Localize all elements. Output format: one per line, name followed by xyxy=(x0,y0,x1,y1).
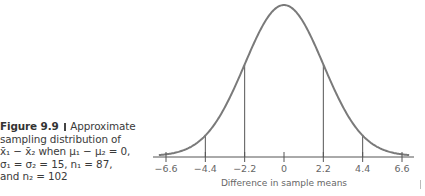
x-tick-label: 6.6 xyxy=(394,163,409,174)
x-tick-label: 0 xyxy=(281,163,287,174)
density-curve xyxy=(159,5,409,155)
scan-mark xyxy=(420,180,421,189)
x-tick-label: 4.4 xyxy=(355,163,370,174)
x-axis-label: Difference in sample means xyxy=(221,178,347,188)
reference-lines xyxy=(205,64,362,157)
x-tick-label: −2.2 xyxy=(233,163,256,174)
normal-distribution-chart: −6.6−4.4−2.202.24.46.6 Difference in sam… xyxy=(0,0,425,196)
x-tick-label: 2.2 xyxy=(316,163,331,174)
x-tick-label: −4.4 xyxy=(194,163,217,174)
x-axis-ticks: −6.6−4.4−2.202.24.46.6 xyxy=(154,152,409,174)
x-tick-label: −6.6 xyxy=(154,163,177,174)
